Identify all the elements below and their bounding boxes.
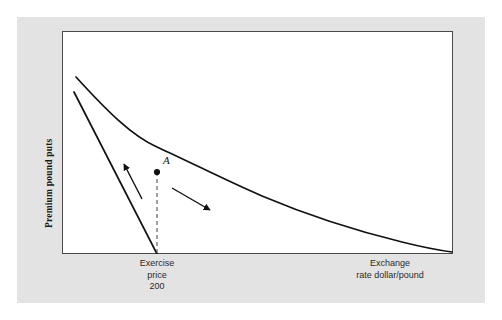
tangent-lower-right-arrow	[172, 188, 210, 210]
figure-root: Premium pound puts A Exercise price 200 …	[0, 0, 502, 320]
y-axis-label: Premium pound puts	[44, 28, 54, 228]
exercise-price-caption-line-3: 200	[107, 281, 207, 293]
plot-graphics	[62, 31, 453, 254]
exchange-rate-axis-caption: Exchange rate dollar/pound	[330, 258, 450, 281]
point-a-marker	[154, 169, 160, 175]
exercise-price-caption: Exercise price 200	[107, 258, 207, 293]
tangent-line	[74, 92, 157, 254]
point-a-label: A	[163, 154, 170, 166]
exercise-price-caption-line-2: price	[107, 270, 207, 282]
exercise-price-caption-line-1: Exercise	[107, 258, 207, 270]
premium-curve	[76, 77, 452, 252]
exchange-rate-caption-line-2: rate dollar/pound	[330, 270, 450, 282]
exchange-rate-caption-line-1: Exchange	[330, 258, 450, 270]
